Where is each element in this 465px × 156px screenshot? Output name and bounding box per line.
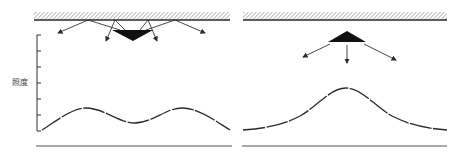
left-panel bbox=[34, 12, 232, 146]
right-panel bbox=[242, 12, 447, 146]
ceiling-right bbox=[243, 12, 447, 20]
y-axis bbox=[37, 35, 41, 131]
luminaire-uplight-icon bbox=[112, 30, 153, 41]
illuminance-curve-left bbox=[42, 108, 230, 130]
diagram-canvas bbox=[0, 0, 465, 156]
luminaire-downlight-icon bbox=[328, 31, 366, 42]
direct-light-rays bbox=[303, 44, 396, 63]
ceiling-left bbox=[34, 12, 230, 20]
y-axis-label: 照度 bbox=[12, 76, 28, 87]
illuminance-curve-right bbox=[243, 88, 447, 130]
lighting-diagram: 照度 bbox=[0, 0, 465, 156]
